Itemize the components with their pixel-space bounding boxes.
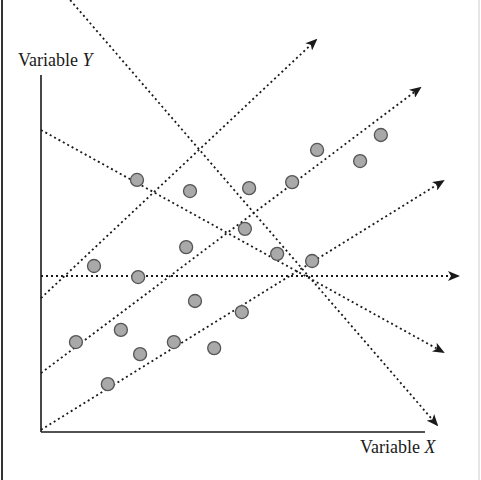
data-points bbox=[69, 128, 387, 390]
data-point bbox=[167, 336, 180, 349]
data-point bbox=[286, 176, 299, 189]
direction-line-middle-ascending bbox=[41, 88, 420, 373]
data-point bbox=[208, 342, 221, 355]
data-point bbox=[131, 173, 144, 186]
y-axis-label-text: Variable bbox=[18, 50, 82, 70]
x-axis-label-text: Variable bbox=[360, 437, 424, 457]
x-axis-label: Variable X bbox=[360, 437, 435, 458]
data-point bbox=[134, 348, 147, 361]
data-point bbox=[188, 294, 201, 307]
data-point bbox=[238, 222, 251, 235]
data-point bbox=[69, 336, 82, 349]
data-point bbox=[87, 259, 100, 272]
diagram-canvas bbox=[0, 0, 481, 480]
data-point bbox=[354, 155, 367, 168]
data-point bbox=[132, 271, 145, 284]
x-axis-label-variable: X bbox=[424, 437, 435, 457]
data-point bbox=[243, 182, 256, 195]
data-point bbox=[114, 323, 127, 336]
data-point bbox=[271, 247, 284, 260]
data-point bbox=[235, 306, 248, 319]
data-point bbox=[180, 241, 193, 254]
data-point bbox=[311, 143, 324, 156]
y-axis-label-variable: Y bbox=[82, 50, 92, 70]
data-point bbox=[101, 378, 114, 391]
data-point bbox=[306, 254, 319, 267]
data-point bbox=[374, 128, 387, 141]
data-point bbox=[183, 185, 196, 198]
direction-lines bbox=[41, 0, 458, 430]
y-axis-label: Variable Y bbox=[18, 50, 92, 71]
